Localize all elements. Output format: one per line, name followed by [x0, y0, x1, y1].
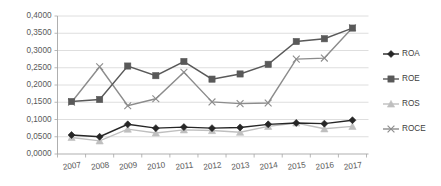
legend-label-ros: ROS [402, 99, 420, 108]
value-axis-label: 0,0000 [26, 149, 51, 158]
data-point-roe [68, 98, 74, 104]
line-chart: 0,00000,05000,10000,15000,20000,25000,30… [0, 0, 441, 186]
value-axis-label: 0,2500 [26, 63, 51, 72]
value-axis-tick-labels: 0,00000,05000,10000,15000,20000,25000,30… [26, 11, 51, 158]
plot-background [0, 0, 441, 186]
data-point-roe [321, 36, 327, 42]
value-axis-label: 0,3000 [26, 46, 51, 55]
data-point-roe [265, 61, 271, 67]
value-axis-label: 0,2000 [26, 80, 51, 89]
value-axis-label: 0,1000 [26, 115, 51, 124]
data-point-roe [349, 25, 355, 31]
legend-label-roa: ROA [402, 49, 420, 58]
value-axis-label: 0,0500 [26, 132, 51, 141]
legend-marker-roe [388, 76, 394, 82]
data-point-roe [97, 96, 103, 102]
data-point-roe [153, 73, 159, 79]
data-point-roe [209, 76, 215, 82]
data-point-roe [181, 58, 187, 64]
data-point-roe [293, 38, 299, 44]
value-axis-label: 0,4000 [26, 11, 51, 20]
data-point-roe [237, 71, 243, 77]
value-axis-label: 0,3500 [26, 28, 51, 37]
chart-canvas: 0,00000,05000,10000,15000,20000,25000,30… [0, 0, 441, 186]
legend-label-roe: ROE [402, 74, 420, 83]
value-axis-label: 0,1500 [26, 97, 51, 106]
data-point-roe [125, 63, 131, 69]
legend-label-roce: ROCE [402, 124, 426, 133]
